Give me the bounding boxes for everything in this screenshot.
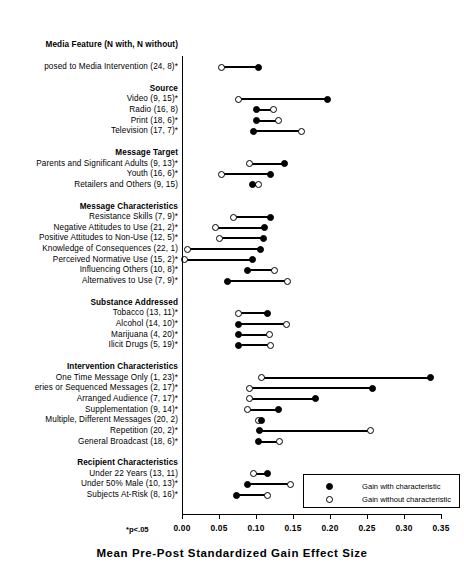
connector-segment xyxy=(248,483,291,485)
marker-with-characteristic xyxy=(235,331,242,338)
legend-label-with: Gain with characteristic xyxy=(362,482,441,491)
x-tick-label: 0.10 xyxy=(236,523,276,533)
marker-with-characteristic xyxy=(255,64,262,71)
x-axis-title: Mean Pre-Post Standardized Gain Effect S… xyxy=(0,547,464,559)
row-label: Alcohol (14, 10)* xyxy=(0,319,178,328)
marker-without-characteristic xyxy=(255,181,262,188)
row-label: Subjects At-Risk (8, 16)* xyxy=(0,490,178,499)
row-label: Under 22 Years (13, 11) xyxy=(0,469,178,478)
marker-without-characteristic xyxy=(270,106,277,113)
column-header: Media Feature (N with, N without) xyxy=(0,40,178,49)
marker-without-characteristic xyxy=(218,64,225,71)
marker-with-characteristic xyxy=(267,171,274,178)
marker-with-characteristic xyxy=(244,481,251,488)
marker-without-characteristic xyxy=(246,385,253,392)
row-label: Arranged Audience (7, 17)* xyxy=(0,394,178,403)
row-label: Negative Attitudes to Use (21, 2)* xyxy=(0,223,178,232)
x-tick-label: 0.25 xyxy=(347,523,387,533)
row-label: Print (18, 6)* xyxy=(0,116,178,125)
row-label: Multiple, Different Messages (20, 2) xyxy=(0,415,178,424)
row-label: Radio (16, 8) xyxy=(0,105,178,114)
x-tick xyxy=(182,514,183,519)
marker-without-characteristic xyxy=(284,278,291,285)
x-tick-label: 0.00 xyxy=(162,523,202,533)
group-header-message-target: Message Target xyxy=(0,148,178,157)
marker-with-characteristic xyxy=(255,438,262,445)
marker-with-characteristic xyxy=(261,224,268,231)
x-tick xyxy=(256,514,257,519)
marker-without-characteristic xyxy=(218,171,225,178)
marker-with-characteristic xyxy=(244,267,251,274)
connector-segment xyxy=(239,344,270,346)
marker-without-characteristic xyxy=(267,342,274,349)
marker-without-characteristic xyxy=(230,214,237,221)
connector-segment xyxy=(253,130,302,132)
x-tick xyxy=(404,514,405,519)
legend: Gain with characteristic Gain without ch… xyxy=(303,474,460,508)
x-tick xyxy=(441,514,442,519)
marker-without-characteristic xyxy=(244,406,251,413)
row-label: Influencing Others (10, 8)* xyxy=(0,265,178,274)
connector-segment xyxy=(261,377,430,379)
row-label: Marijuana (4, 20)* xyxy=(0,330,178,339)
marker-without-characteristic xyxy=(287,481,294,488)
marker-with-characteristic xyxy=(324,96,331,103)
marker-with-characteristic xyxy=(275,406,282,413)
marker-with-characteristic xyxy=(253,117,260,124)
marker-without-characteristic xyxy=(235,310,242,317)
row-label: Youth (16, 6)* xyxy=(0,169,178,178)
marker-with-characteristic xyxy=(427,374,434,381)
row-label: Under 50% Male (10, 13)* xyxy=(0,479,178,488)
horizontal-axis-line xyxy=(182,514,442,515)
marker-with-characteristic xyxy=(253,106,260,113)
marker-with-characteristic xyxy=(260,235,267,242)
marker-without-characteristic xyxy=(212,224,219,231)
marker-without-characteristic xyxy=(367,427,374,434)
marker-with-characteristic xyxy=(264,470,271,477)
connector-segment xyxy=(239,98,327,100)
connector-segment xyxy=(249,387,373,389)
marker-with-characteristic xyxy=(249,181,256,188)
row-label: eries or Sequenced Messages (2, 17)* xyxy=(0,383,178,392)
connector-segment xyxy=(239,312,267,314)
marker-with-characteristic xyxy=(256,427,263,434)
marker-without-characteristic xyxy=(184,246,191,253)
marker-with-characteristic xyxy=(369,385,376,392)
marker-with-characteristic xyxy=(264,310,271,317)
marker-without-characteristic xyxy=(275,117,282,124)
marker-with-characteristic xyxy=(249,256,256,263)
x-tick xyxy=(367,514,368,519)
connector-segment xyxy=(220,237,264,239)
connector-segment xyxy=(239,334,269,336)
p-value-footnote: *p<.05 xyxy=(126,525,149,534)
x-tick xyxy=(219,514,220,519)
row-label: Tobacco (13, 11)* xyxy=(0,308,178,317)
marker-without-characteristic xyxy=(250,470,257,477)
group-header-recipient-characteristics: Recipient Characteristics xyxy=(0,458,178,467)
marker-with-characteristic xyxy=(233,492,240,499)
marker-without-characteristic xyxy=(246,160,253,167)
x-tick-label: 0.35 xyxy=(421,523,461,533)
connector-segment xyxy=(248,409,279,411)
connector-segment xyxy=(228,280,287,282)
row-label: Supplementation (9, 14)* xyxy=(0,405,178,414)
marker-with-characteristic xyxy=(281,160,288,167)
filled-circle-icon xyxy=(326,483,333,490)
group-header-source: Source xyxy=(0,84,178,93)
row-label: Alternatives to Use (7, 9)* xyxy=(0,276,178,285)
marker-without-characteristic xyxy=(283,321,290,328)
marker-without-characteristic xyxy=(266,331,273,338)
marker-without-characteristic xyxy=(271,267,278,274)
marker-with-characteristic xyxy=(312,395,319,402)
connector-segment xyxy=(233,216,271,218)
connector-segment xyxy=(222,66,259,68)
connector-segment xyxy=(187,248,260,250)
dumbbell-chart: Media Feature (N with, N without) posed … xyxy=(0,0,464,578)
row-label: Ilicit Drugs (5, 19)* xyxy=(0,340,178,349)
row-label: General Broadcast (18, 6)* xyxy=(0,437,178,446)
vertical-axis-line xyxy=(182,56,183,514)
marker-without-characteristic xyxy=(264,492,271,499)
row-label: posed to Media Intervention (24, 8)* xyxy=(0,62,178,71)
connector-segment xyxy=(237,494,268,496)
row-label: Perceived Normative Use (15, 2)* xyxy=(0,255,178,264)
